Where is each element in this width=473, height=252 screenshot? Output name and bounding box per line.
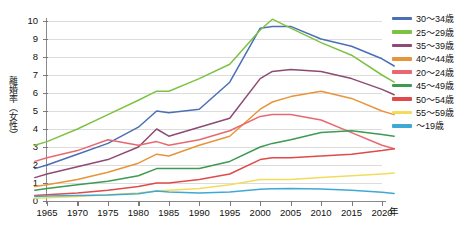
legend: 30～34歳25～29歳35～39歳40～44歳20～24歳45～49歳50～5… [392, 12, 472, 133]
legend-swatch-icon [392, 30, 412, 34]
legend-item[interactable]: 30～34歳 [392, 12, 472, 25]
legend-swatch-icon [392, 124, 412, 128]
legend-item[interactable]: 50～54歳 [392, 92, 472, 105]
legend-label: 25～29歳 [416, 26, 454, 39]
legend-label: ～19歳 [416, 119, 444, 132]
legend-item[interactable]: 45～49歳 [392, 79, 472, 92]
divorce-rate-line-chart: 離婚率（女性） 012345678910 1965197019751980198… [0, 0, 473, 252]
legend-item[interactable]: 40～44歳 [392, 52, 472, 65]
legend-swatch-icon [392, 57, 412, 61]
legend-label: 55～59歳 [416, 106, 454, 119]
legend-label: 50～54歳 [416, 93, 454, 106]
legend-item[interactable]: ～19歳 [392, 119, 472, 132]
legend-swatch-icon [392, 44, 412, 48]
series-line-5 [35, 131, 394, 190]
legend-swatch-icon [392, 84, 412, 88]
legend-label: 20～24歳 [416, 66, 454, 79]
series-line-3 [35, 91, 394, 186]
legend-item[interactable]: 35～39歳 [392, 39, 472, 52]
legend-swatch-icon [392, 111, 412, 115]
legend-item[interactable]: 25～29歳 [392, 25, 472, 38]
legend-swatch-icon [392, 70, 412, 74]
series-line-1 [35, 19, 394, 145]
legend-swatch-icon [392, 97, 412, 101]
legend-swatch-icon [392, 17, 412, 21]
legend-item[interactable]: 20～24歳 [392, 66, 472, 79]
legend-label: 40～44歳 [416, 52, 454, 65]
legend-label: 30～34歳 [416, 12, 454, 25]
legend-label: 35～39歳 [416, 39, 454, 52]
series-line-6 [35, 149, 394, 196]
x-axis-title: 年 [389, 204, 399, 218]
legend-item[interactable]: 55～59歳 [392, 106, 472, 119]
legend-label: 45～49歳 [416, 79, 454, 92]
